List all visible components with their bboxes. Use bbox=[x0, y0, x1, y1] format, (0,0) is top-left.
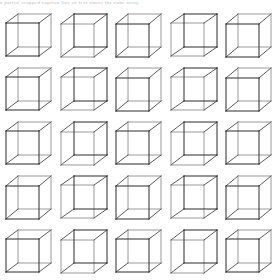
necker-cube-grid bbox=[0, 0, 277, 280]
necker-cube-r3c3 bbox=[112, 118, 165, 168]
necker-cube-r1c3 bbox=[112, 10, 165, 61]
necker-cube-r4c1 bbox=[2, 172, 55, 223]
necker-cube-r4c2 bbox=[57, 172, 111, 222]
necker-cube-r4c4 bbox=[167, 172, 221, 222]
necker-cube-r4c3 bbox=[112, 172, 165, 223]
necker-cube-r2c5 bbox=[222, 64, 275, 115]
necker-cube-r4c5 bbox=[222, 172, 275, 223]
necker-cube-r3c4 bbox=[167, 118, 221, 169]
necker-cube-r3c1 bbox=[2, 118, 55, 168]
necker-cube-r1c2 bbox=[57, 10, 111, 61]
necker-cube-r5c1 bbox=[2, 226, 55, 276]
necker-cube-r3c2 bbox=[57, 118, 111, 169]
necker-cube-r5c5 bbox=[222, 226, 275, 276]
necker-cube-r1c4 bbox=[167, 10, 221, 60]
necker-cube-r1c1 bbox=[2, 10, 55, 60]
necker-cube-r1c5 bbox=[222, 10, 275, 61]
necker-cube-r5c3 bbox=[112, 226, 165, 276]
necker-cube-r2c2 bbox=[57, 64, 111, 114]
necker-cube-r3c5 bbox=[222, 118, 275, 168]
necker-cube-r5c2 bbox=[57, 226, 111, 277]
necker-cube-r2c3 bbox=[112, 64, 165, 115]
figure-canvas: a partial cropped caption line of text a… bbox=[0, 0, 277, 280]
necker-cube-r5c4 bbox=[167, 226, 221, 277]
necker-cube-r2c4 bbox=[167, 64, 221, 114]
necker-cube-r2c1 bbox=[2, 64, 55, 114]
